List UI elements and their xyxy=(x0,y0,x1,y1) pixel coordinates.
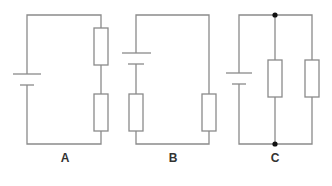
battery-icon xyxy=(13,74,41,85)
circuit-a-wire xyxy=(27,15,101,74)
circuit-c-label: C xyxy=(271,151,280,165)
circuit-diagram-canvas: A B C xyxy=(0,0,332,186)
circuit-a xyxy=(13,15,108,144)
circuit-b-label: B xyxy=(169,151,178,165)
circuit-a-label: A xyxy=(61,151,70,165)
resistor-icon xyxy=(94,28,108,65)
resistor-icon xyxy=(305,60,319,97)
resistor-icon xyxy=(268,60,282,97)
circuit-b-wire-top xyxy=(136,15,209,94)
junction-dot-icon xyxy=(272,12,277,17)
circuit-b xyxy=(122,15,216,144)
circuit-b-wire-bottom xyxy=(136,131,209,144)
resistor-icon xyxy=(202,94,216,131)
circuit-c xyxy=(226,12,319,146)
junction-dot-icon xyxy=(272,141,277,146)
resistor-icon xyxy=(129,94,143,131)
battery-icon xyxy=(226,73,252,84)
circuit-drawing xyxy=(0,0,332,186)
battery-icon xyxy=(122,53,151,64)
resistor-icon xyxy=(94,94,108,131)
circuit-a-wire-bottom xyxy=(27,85,101,144)
